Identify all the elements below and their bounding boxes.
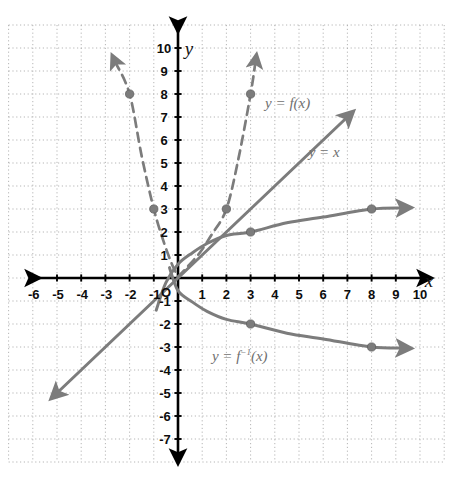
y-tick-neg7: -7 bbox=[159, 432, 171, 447]
y-tick-9: 9 bbox=[160, 64, 167, 79]
finv-exponent: −1 bbox=[240, 347, 251, 357]
x-tick-7: 7 bbox=[344, 287, 351, 302]
y-tick-1: 1 bbox=[160, 248, 167, 263]
curve-label-f-inverse: y = f−1(x) bbox=[212, 347, 268, 365]
axis-lines bbox=[32, 24, 424, 456]
curve-lines bbox=[57, 62, 403, 393]
y-tick-5: 5 bbox=[160, 156, 167, 171]
y-tick-neg5: -5 bbox=[159, 386, 171, 401]
y-tick-8: 8 bbox=[160, 87, 167, 102]
y-axis-label: y bbox=[185, 38, 193, 60]
y-tick-2: 2 bbox=[160, 225, 167, 240]
y-tick-neg6: -6 bbox=[159, 409, 171, 424]
x-tick-neg5: -5 bbox=[52, 287, 64, 302]
y-tick-7: 7 bbox=[160, 110, 167, 125]
curve-label-f: y = f(x) bbox=[265, 95, 310, 112]
y-tick-3: 3 bbox=[160, 202, 167, 217]
y-tick-4: 4 bbox=[160, 179, 167, 194]
x-tick-8: 8 bbox=[368, 287, 375, 302]
y-tick-6: 6 bbox=[160, 133, 167, 148]
x-tick-neg3: -3 bbox=[101, 287, 113, 302]
y-tick-neg4: -4 bbox=[159, 363, 171, 378]
y-tick-neg3: -3 bbox=[159, 340, 171, 355]
x-tick-4: 4 bbox=[271, 287, 278, 302]
y-tick-10: 10 bbox=[157, 41, 171, 56]
y-tick-neg2: -2 bbox=[159, 317, 171, 332]
x-tick-5: 5 bbox=[295, 287, 302, 302]
x-tick-neg2: -2 bbox=[125, 287, 137, 302]
grid-lines bbox=[9, 25, 445, 462]
x-tick-6: 6 bbox=[320, 287, 327, 302]
x-axis-label: x bbox=[425, 270, 433, 292]
x-tick-3: 3 bbox=[247, 287, 254, 302]
x-tick-neg6: -6 bbox=[28, 287, 40, 302]
x-tick-9: 9 bbox=[392, 287, 399, 302]
point-markers bbox=[126, 90, 376, 351]
coordinate-plot bbox=[0, 0, 467, 487]
finv-prefix: y = f bbox=[212, 348, 240, 364]
x-tick-2: 2 bbox=[223, 287, 230, 302]
curve-label-identity: y = x bbox=[309, 144, 340, 161]
finv-suffix: (x) bbox=[251, 348, 268, 364]
x-tick-1: 1 bbox=[199, 287, 206, 302]
origin-label: O bbox=[161, 285, 171, 300]
graph-figure: -6-5-4-3-2-11234567891010987654321-1-2-3… bbox=[0, 0, 467, 487]
x-tick-neg4: -4 bbox=[76, 287, 88, 302]
